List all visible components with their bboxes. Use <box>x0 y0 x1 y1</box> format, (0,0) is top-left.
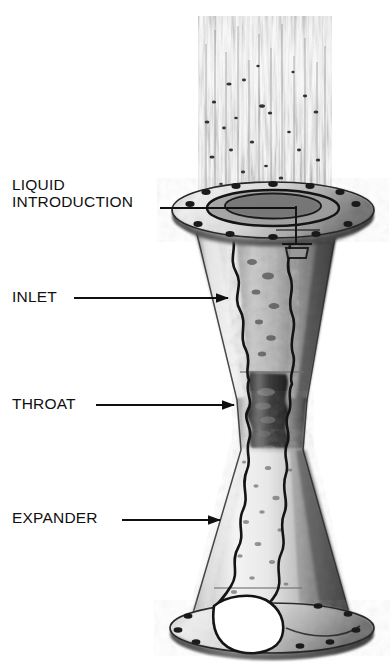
callout-label-expander: EXPANDER <box>12 509 98 526</box>
figure-canvas: LIQUID INTRODUCTION INLET THROAT EXPANDE… <box>0 0 390 668</box>
callout-label-throat: THROAT <box>12 395 76 412</box>
vessel-body <box>186 224 358 628</box>
callout-label-liquid-introduction: LIQUID INTRODUCTION <box>12 176 133 210</box>
top-flange <box>172 181 374 247</box>
venturi-scrubber-diagram <box>0 0 390 668</box>
callout-label-inlet: INLET <box>12 288 57 305</box>
spray-plume <box>198 16 332 202</box>
